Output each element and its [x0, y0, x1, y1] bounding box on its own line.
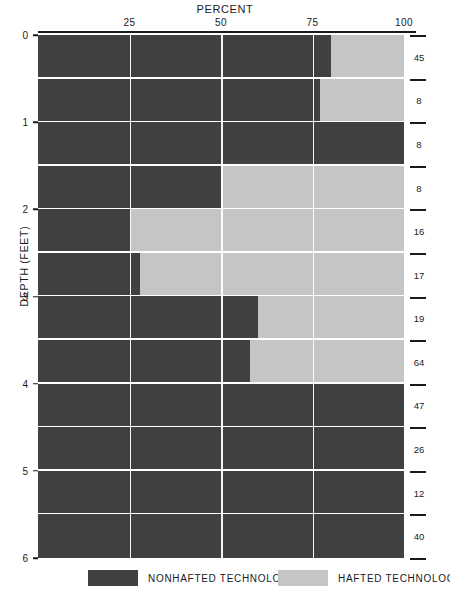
- depth-tick-label-6: 6: [22, 553, 28, 564]
- segment-nonhafted: [38, 253, 140, 297]
- chart-title: PERCENT: [0, 3, 450, 15]
- stacked-bar-plot-area: [38, 35, 404, 558]
- x-tick-label-100: 100: [395, 17, 413, 28]
- count-value-label: 26: [404, 444, 434, 455]
- count-tick-mark: [410, 558, 426, 560]
- legend-item-nonhafted[interactable]: NONHAFTED TECHNOLOGY: [88, 570, 297, 586]
- x-tick-label-50: 50: [215, 17, 227, 28]
- count-tick-mark: [410, 471, 426, 473]
- depth-axis-label: DEPTH (FEET): [18, 196, 30, 336]
- segment-hafted: [130, 209, 405, 253]
- count-value-label: 40: [404, 531, 434, 542]
- count-tick-mark: [410, 297, 426, 299]
- count-value-label: 8: [404, 138, 434, 149]
- x-tick-label-75: 75: [307, 17, 319, 28]
- segment-hafted: [331, 35, 404, 79]
- row-separator: [38, 513, 404, 515]
- segment-nonhafted: [38, 79, 320, 123]
- count-tick-mark: [410, 427, 426, 429]
- segment-hafted: [140, 253, 404, 297]
- depth-tick-label-0: 0: [22, 30, 28, 41]
- segment-nonhafted: [38, 296, 258, 340]
- count-value-label: 19: [404, 313, 434, 324]
- legend-label: HAFTED TECHNOLOGY: [338, 573, 450, 584]
- count-tick-mark: [410, 384, 426, 386]
- count-tick-mark: [410, 122, 426, 124]
- counts-axis: 458881617196447261240: [404, 35, 450, 558]
- count-value-label: 17: [404, 269, 434, 280]
- count-value-label: 64: [404, 356, 434, 367]
- segment-nonhafted: [38, 340, 250, 384]
- segment-nonhafted: [38, 35, 331, 79]
- count-value-label: 8: [404, 182, 434, 193]
- row-separator: [38, 426, 404, 428]
- count-value-label: 8: [404, 95, 434, 106]
- row-separator: [38, 208, 404, 210]
- segment-hafted: [250, 340, 404, 384]
- depth-tick-label-5: 5: [22, 465, 28, 476]
- vertical-gridline-25: [130, 35, 132, 558]
- count-value-label: 47: [404, 400, 434, 411]
- vertical-gridline-75: [313, 35, 315, 558]
- segment-hafted: [258, 296, 404, 340]
- row-separator: [38, 338, 404, 340]
- count-value-label: 12: [404, 487, 434, 498]
- plot-top-rule: [38, 31, 416, 33]
- row-separator: [38, 382, 404, 384]
- row-separator: [38, 469, 404, 471]
- depth-tick-label-1: 1: [22, 117, 28, 128]
- row-separator: [38, 164, 404, 166]
- count-tick-mark: [410, 253, 426, 255]
- count-tick-mark: [410, 209, 426, 211]
- legend-item-hafted[interactable]: HAFTED TECHNOLOGY: [278, 570, 450, 586]
- chart-legend: NONHAFTED TECHNOLOGYHAFTED TECHNOLOGY: [0, 570, 450, 600]
- depth-tick-mark-0: [33, 34, 38, 36]
- count-value-label: 16: [404, 226, 434, 237]
- count-value-label: 45: [404, 51, 434, 62]
- depth-tick-mark-6: [33, 557, 38, 559]
- row-separator: [38, 77, 404, 79]
- count-tick-mark: [410, 340, 426, 342]
- segment-hafted: [320, 79, 404, 123]
- segment-nonhafted: [38, 209, 130, 253]
- legend-label: NONHAFTED TECHNOLOGY: [148, 573, 297, 584]
- vertical-gridline-50: [221, 35, 223, 558]
- count-tick-mark: [410, 514, 426, 516]
- legend-swatch-icon: [278, 570, 328, 586]
- row-separator: [38, 295, 404, 297]
- legend-swatch-icon: [88, 570, 138, 586]
- row-separator: [38, 121, 404, 123]
- count-tick-mark: [410, 166, 426, 168]
- count-tick-mark: [410, 35, 426, 37]
- x-tick-label-25: 25: [124, 17, 136, 28]
- row-separator: [38, 251, 404, 253]
- count-tick-mark: [410, 79, 426, 81]
- depth-tick-label-4: 4: [22, 378, 28, 389]
